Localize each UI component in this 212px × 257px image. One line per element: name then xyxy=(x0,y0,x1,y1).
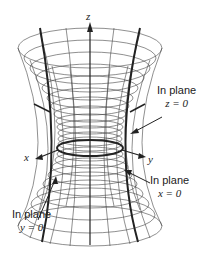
label-plane-y0: In plane y = 0 xyxy=(12,208,51,234)
pointer-x0 xyxy=(128,172,150,183)
label-plane-z0: In plane z = 0 xyxy=(157,84,196,110)
z-axis-label: z xyxy=(86,10,90,23)
x-axis-label: x xyxy=(24,151,29,164)
z-axis-arrow xyxy=(87,22,93,32)
label-plane-x0: In plane x = 0 xyxy=(150,174,189,200)
y-axis-label: y xyxy=(148,153,153,166)
pointer-z0 xyxy=(134,117,162,132)
